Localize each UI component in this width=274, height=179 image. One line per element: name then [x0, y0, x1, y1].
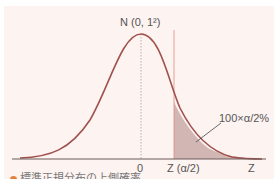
caption-text: 標準正規分布の上側確率: [20, 172, 141, 179]
area-label: 100×α/2%: [219, 113, 269, 124]
bullet-icon: [10, 176, 17, 179]
upper-tail-area: [174, 102, 262, 159]
tick-critical-value: Z (α/2): [167, 163, 200, 174]
x-axis-label: Z: [248, 163, 255, 174]
figure-caption: 標準正規分布の上側確率: [10, 173, 141, 179]
area-leader-line: [196, 123, 221, 142]
figure: N (0, 1²) 100×α/2% 0 Z (α/2) Z 標準正規分布の上側…: [0, 0, 274, 179]
distribution-title: N (0, 1²): [120, 17, 160, 28]
